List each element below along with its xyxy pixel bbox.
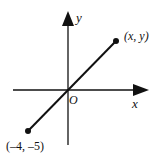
x-axis-label: x (131, 96, 138, 111)
line-segment (28, 41, 116, 131)
y-axis-label: y (74, 10, 82, 25)
y-axis-arrow-icon (62, 11, 74, 26)
point-lower (25, 128, 31, 134)
x-axis-arrow-icon (133, 84, 149, 96)
coordinate-diagram: y x O (x, y) (–4, –5) (0, 0, 160, 159)
point-upper (113, 38, 119, 44)
point-upper-label: (x, y) (124, 29, 149, 43)
point-lower-label: (–4, –5) (6, 139, 44, 153)
origin-label: O (69, 93, 78, 107)
